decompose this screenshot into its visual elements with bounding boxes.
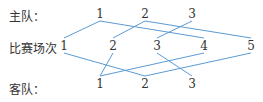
home-team-label: 主队： — [9, 7, 45, 24]
edge-away1-match2 — [100, 53, 113, 76]
edge-home1-match4 — [100, 21, 204, 38]
edge-away2-match5 — [145, 53, 251, 76]
away-node-3: 3 — [188, 78, 196, 90]
edge-home2-match5 — [145, 21, 251, 38]
match-node-4: 4 — [200, 40, 208, 52]
match-schedule-diagram: 主队： 比赛场次 客队： 1 2 3 1 2 3 4 5 1 2 3 — [0, 0, 263, 102]
match-node-3: 3 — [153, 40, 161, 52]
edge-away2-match1 — [64, 53, 145, 76]
match-number-label: 比赛场次 — [9, 39, 57, 56]
away-team-label: 客队： — [9, 80, 45, 97]
home-node-1: 1 — [96, 8, 104, 20]
edge-away1-match4 — [100, 53, 204, 76]
edge-home1-match1 — [64, 21, 100, 38]
home-node-2: 2 — [141, 8, 149, 20]
home-node-3: 3 — [188, 8, 196, 20]
match-node-5: 5 — [247, 40, 255, 52]
match-node-2: 2 — [109, 40, 117, 52]
match-node-1: 1 — [60, 40, 68, 52]
away-node-1: 1 — [96, 78, 104, 90]
away-node-2: 2 — [141, 78, 149, 90]
